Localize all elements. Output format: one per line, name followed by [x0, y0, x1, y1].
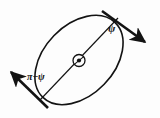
psi-angle-label: ψ	[108, 23, 115, 34]
out-of-page-vector-marker	[73, 55, 85, 67]
figure-container: ψ π−ψ	[0, 0, 160, 118]
diagram-canvas	[0, 0, 160, 118]
pi-minus-psi-angle-label: π−ψ	[27, 72, 45, 82]
